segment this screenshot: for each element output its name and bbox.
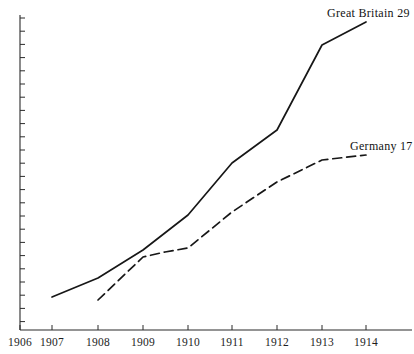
series-line-germany bbox=[98, 155, 366, 300]
x-axis-tick-label: 1906 bbox=[8, 336, 32, 348]
x-axis-tick-label: 1908 bbox=[86, 336, 110, 348]
x-axis-tick-label: 1907 bbox=[40, 336, 64, 348]
x-axis-tick-label: 1909 bbox=[131, 336, 155, 348]
x-axis-tick-label: 1911 bbox=[220, 336, 243, 348]
x-axis-tick-label: 1913 bbox=[310, 336, 334, 348]
series-line-great-britain bbox=[52, 22, 366, 297]
series-label-germany: Germany 17 bbox=[350, 139, 413, 154]
x-axis-tick-label: 1910 bbox=[176, 336, 200, 348]
series-label-great-britain: Great Britain 29 bbox=[327, 6, 410, 21]
y-axis-ticks bbox=[20, 18, 25, 322]
x-axis bbox=[20, 325, 412, 330]
y-axis bbox=[20, 15, 25, 330]
x-axis-tick-label: 1912 bbox=[265, 336, 289, 348]
x-axis-tick-label: 1914 bbox=[354, 336, 378, 348]
chart-figure: 190619071908190919101911191219131914 Gre… bbox=[0, 0, 414, 354]
x-axis-ticks bbox=[20, 325, 366, 330]
chart-plot-area bbox=[0, 0, 414, 354]
